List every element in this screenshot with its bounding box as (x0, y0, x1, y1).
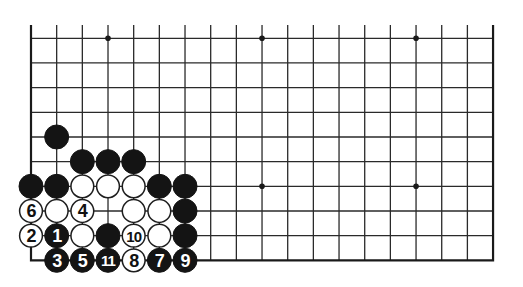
stone-disc (147, 174, 171, 198)
white-stone (71, 175, 94, 198)
black-stone (70, 150, 94, 174)
black-stone (122, 150, 146, 174)
white-stone: 4 (71, 200, 94, 223)
move-number: 2 (26, 226, 36, 246)
black-stone (96, 224, 120, 248)
white-stone (122, 200, 145, 223)
move-number: 4 (78, 201, 88, 221)
stone-disc (45, 174, 69, 198)
stone-disc (71, 224, 94, 247)
board-grid (31, 25, 493, 260)
stone-disc (96, 150, 120, 174)
stone-disc (148, 224, 171, 247)
stone-disc (19, 174, 43, 198)
stone-disc (122, 200, 145, 223)
stone-disc (173, 174, 197, 198)
white-stone: 8 (122, 249, 145, 272)
black-stone (173, 174, 197, 198)
white-stone (45, 200, 68, 223)
hoshi-point (413, 36, 419, 42)
black-stone: 7 (147, 248, 171, 272)
move-number: 7 (155, 251, 165, 271)
stone-disc (45, 125, 69, 149)
stone-disc (148, 200, 171, 223)
hoshi-point (259, 184, 265, 190)
white-stone (122, 175, 145, 198)
stone-disc (122, 150, 146, 174)
black-stone: 1 (45, 224, 69, 248)
black-stone (96, 150, 120, 174)
stone-disc (122, 175, 145, 198)
white-stone: 2 (20, 224, 43, 247)
black-stone (45, 174, 69, 198)
move-number: 9 (181, 251, 191, 271)
white-stone (148, 200, 171, 223)
stone-disc (173, 199, 197, 223)
hoshi-point (105, 36, 111, 42)
stone-disc (97, 175, 120, 198)
go-board-diagram: 6421103511879 (0, 0, 523, 287)
go-board: 6421103511879 (0, 0, 523, 287)
black-stone: 9 (173, 248, 197, 272)
white-stone (97, 175, 120, 198)
white-stone: 6 (20, 200, 43, 223)
white-stone (71, 224, 94, 247)
black-stone: 5 (70, 248, 94, 272)
move-number: 5 (78, 251, 88, 271)
stone-disc (70, 150, 94, 174)
hoshi-point (259, 36, 265, 42)
white-stone (148, 224, 171, 247)
black-stone (173, 224, 197, 248)
stone-disc (45, 200, 68, 223)
move-number: 1 (52, 226, 62, 246)
black-stone (19, 174, 43, 198)
move-number: 3 (52, 251, 62, 271)
black-stone: 11 (96, 248, 120, 272)
black-stone (147, 174, 171, 198)
move-number: 8 (129, 251, 139, 271)
hoshi-point (413, 184, 419, 190)
white-stone: 10 (122, 224, 145, 247)
move-number: 10 (126, 228, 141, 245)
black-stone (173, 199, 197, 223)
stone-disc (173, 224, 197, 248)
move-number: 6 (26, 201, 36, 221)
black-stone: 3 (45, 248, 69, 272)
black-stone (45, 125, 69, 149)
stone-disc (96, 224, 120, 248)
move-number: 11 (101, 252, 116, 269)
stone-disc (71, 175, 94, 198)
